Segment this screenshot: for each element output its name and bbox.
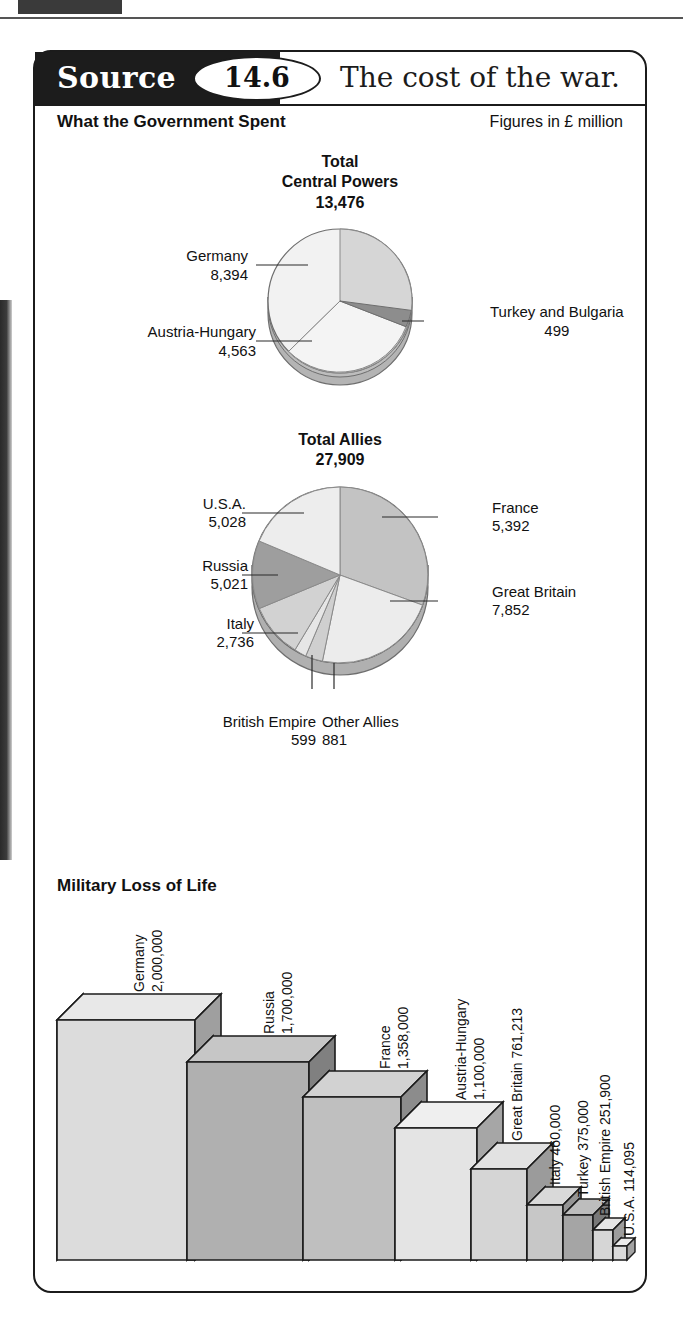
bar-label-turkey: Turkey 375,000 [575, 1100, 593, 1197]
spend-heading: What the Government Spent [57, 112, 286, 132]
pie2-label-british-empire: British Empire 599 [200, 713, 316, 750]
pie1-title-line3: 13,476 [35, 193, 645, 213]
pie2-svg [242, 479, 438, 689]
pie1-title-line2: Central Powers [35, 172, 645, 192]
source-card: Source 14.6 The cost of the war. What th… [33, 50, 647, 1293]
bar-label-germany: Germany 2,000,000 [131, 930, 166, 992]
source-number: 14.6 [193, 56, 321, 101]
pie2-label-british-empire-value: 599 [200, 731, 316, 749]
bar-label-austria-hungary: Austria-Hungary 1,100,000 [453, 999, 488, 1100]
bar-label-italy-text: Italy 460,000 [547, 1105, 565, 1185]
bar-label-british-empire-text: British Empire 251,900 [597, 1074, 615, 1216]
pie1-title: Total Central Powers 13,476 [35, 148, 645, 213]
page-top-rule [0, 17, 683, 19]
source-title: The cost of the war. [340, 61, 620, 94]
pie1-label-germany-name: Germany [186, 247, 248, 265]
pie2-title-line1: Total Allies [35, 430, 645, 450]
bar-label-great-britain: Great Britain 761,213 [509, 1008, 527, 1141]
pie1-label-germany: Germany 8,394 [186, 247, 248, 284]
pie2-label-russia: Russia 5,021 [202, 557, 248, 594]
bar-chart-military-loss: Germany 2,000,000 Russia 1,700,000 Franc… [35, 892, 645, 1282]
pie1-label-germany-value: 8,394 [186, 266, 248, 284]
bar-label-russia-name: Russia [261, 972, 279, 1034]
bar-label-france-value: 1,358,000 [395, 1007, 413, 1069]
bar-label-british-empire: British Empire 251,900 [597, 1074, 615, 1216]
pie2-label-other-allies: Other Allies 881 [322, 713, 412, 750]
bar-label-germany-value: 2,000,000 [149, 930, 167, 992]
pie2-label-usa-name: U.S.A. [203, 495, 246, 513]
source-banner: Source 14.6 The cost of the war. [35, 52, 645, 106]
pie1-title-line1: Total [35, 152, 645, 172]
pie-chart-central-powers: Total Central Powers 13,476 [35, 148, 645, 418]
bar-label-great-britain-text: Great Britain 761,213 [509, 1008, 527, 1141]
pie2-label-other-allies-value: 881 [322, 731, 412, 749]
pie2-label-france-name: France [492, 499, 539, 517]
pie2-label-great-britain: Great Britain 7,852 [492, 583, 576, 620]
pie2-title: Total Allies 27,909 [35, 430, 645, 471]
pie2-title-line2: 27,909 [35, 450, 645, 470]
pie1-label-austria-hungary-value: 4,563 [148, 342, 256, 360]
pie2-label-other-allies-name: Other Allies [322, 713, 412, 731]
pie2-label-great-britain-name: Great Britain [492, 583, 576, 601]
bar-label-usa-text: U.S.A. 114,095 [621, 1142, 639, 1236]
pie1-label-turkey-bulgaria: Turkey and Bulgaria 499 [490, 303, 624, 340]
bar-label-italy: Italy 460,000 [547, 1105, 565, 1185]
pie2-label-france: France 5,392 [492, 499, 539, 536]
bar-label-russia-value: 1,700,000 [279, 972, 297, 1034]
bar-label-russia: Russia 1,700,000 [261, 972, 296, 1034]
pie1-label-austria-hungary: Austria-Hungary 4,563 [148, 323, 256, 360]
bar-label-austria-hungary-name: Austria-Hungary [453, 999, 471, 1100]
page-gutter-shadow [0, 300, 12, 860]
pie2-label-italy-value: 2,736 [216, 633, 254, 651]
pie1-graphic: Germany 8,394 Austria-Hungary 4,563 Turk… [256, 221, 424, 396]
pie2-label-france-value: 5,392 [492, 517, 539, 535]
pie-chart-allies: Total Allies 27,909 [35, 430, 645, 760]
source-label: Source [57, 60, 176, 95]
pie2-label-british-empire-name: British Empire [200, 713, 316, 731]
pie1-label-turkey-bulgaria-value: 499 [490, 322, 624, 340]
bar-label-france: France 1,358,000 [377, 1007, 412, 1069]
bar-chart-svg [35, 892, 645, 1282]
pie2-label-italy: Italy 2,736 [216, 615, 254, 652]
pie2-label-russia-name: Russia [202, 557, 248, 575]
pie2-label-usa-value: 5,028 [203, 513, 246, 531]
pie2-label-italy-name: Italy [216, 615, 254, 633]
pie1-label-austria-hungary-name: Austria-Hungary [148, 323, 256, 341]
bar-label-austria-hungary-value: 1,100,000 [471, 999, 489, 1100]
bar-label-turkey-text: Turkey 375,000 [575, 1100, 593, 1197]
bar-label-germany-name: Germany [131, 930, 149, 992]
pie1-label-turkey-bulgaria-name: Turkey and Bulgaria [490, 303, 624, 321]
pie1-svg [256, 221, 424, 396]
page-corner-artifact [18, 0, 122, 14]
bar-label-usa: U.S.A. 114,095 [621, 1142, 639, 1236]
figures-unit-note: Figures in £ million [490, 113, 623, 131]
pie2-label-usa: U.S.A. 5,028 [203, 495, 246, 532]
bar-label-france-name: France [377, 1007, 395, 1069]
pie2-graphic: U.S.A. 5,028 Russia 5,021 Italy 2,736 Fr… [242, 479, 438, 689]
pie2-label-russia-value: 5,021 [202, 575, 248, 593]
spend-subheader: What the Government Spent Figures in £ m… [35, 108, 645, 142]
pie2-label-great-britain-value: 7,852 [492, 601, 576, 619]
